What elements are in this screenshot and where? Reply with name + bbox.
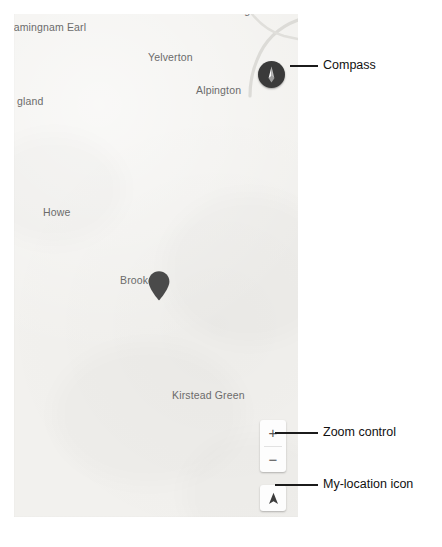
my-location-button[interactable]	[260, 485, 286, 511]
map-label-framingham-earl: ramingnam Earl	[14, 21, 86, 33]
compass-needle-icon	[258, 61, 285, 88]
zoom-out-button[interactable]: −	[260, 447, 286, 473]
map-label-alpington: Alpington	[196, 84, 241, 96]
map-label-kirstead-green: Kirstead Green	[172, 389, 245, 401]
map-label-halvergate: Halvergate	[213, 14, 265, 16]
map-canvas[interactable]: ramingnam Earl Halvergate Yelverton Alpi…	[14, 14, 298, 517]
zoom-control[interactable]: + −	[260, 420, 286, 472]
navigation-arrow-icon	[266, 491, 281, 506]
my-location-annotation-line	[275, 484, 318, 486]
map-label-poringland: gland	[17, 95, 43, 107]
compass-button[interactable]	[258, 61, 285, 88]
map-terrain-blotch	[164, 194, 298, 344]
compass-annotation-line	[290, 65, 318, 67]
zoom-annotation-line	[275, 432, 318, 434]
zoom-annotation-label: Zoom control	[323, 425, 396, 439]
my-location-annotation-label: My-location icon	[323, 477, 413, 491]
map-marker-pin[interactable]	[147, 270, 171, 302]
map-label-howe: Howe	[43, 206, 70, 218]
compass-annotation-label: Compass	[323, 58, 376, 72]
map-label-yelverton: Yelverton	[148, 51, 193, 63]
map-terrain-blotch	[14, 134, 124, 244]
